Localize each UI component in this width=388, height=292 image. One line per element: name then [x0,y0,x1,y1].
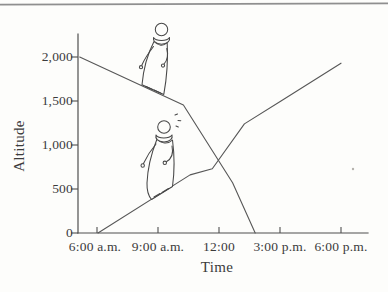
x-tick-label-3pm: 3:00 p.m. [253,239,306,254]
y-tick-label-0: 0 [66,225,73,240]
descending-monk-figure [139,23,169,94]
y-tick-label-2000: 2,000 [42,49,73,64]
ascending-monk-figure [141,114,181,200]
top-rule [0,3,388,4]
y-tick-label-1500: 1,500 [42,93,73,108]
monk-hand-left [139,66,142,69]
x-tick-labels: 6:00 a.m. 9:00 a.m. 12:00 3:00 p.m. 6:00… [69,239,368,254]
monk-hand-right [161,64,164,67]
x-tick-label-6pm: 6:00 p.m. [314,239,367,254]
monk-head [158,121,171,134]
x-ticks [97,227,341,233]
x-tick-label-12: 12:00 [203,239,235,254]
monk-hand-left [141,164,144,167]
x-tick-label-6am: 6:00 a.m. [69,239,121,254]
y-tick-label-500: 500 [52,181,73,196]
y-axis-title: Altitude [11,120,27,172]
sweat-marks [175,114,181,127]
y-tick-labels: 0 500 1,000 1,500 2,000 [42,49,73,240]
monk-robe [147,139,174,200]
monk-hand-right [163,161,166,164]
y-tick-label-1000: 1,000 [42,137,73,152]
x-tick-label-9am: 9:00 a.m. [132,239,184,254]
monk-cowl [156,135,172,142]
ascending-line [98,63,341,233]
altitude-time-chart: 0 500 1,000 1,500 2,000 6:00 a.m. 9:00 a… [0,0,388,292]
print-speck [352,168,354,170]
monk-head [155,23,167,35]
x-axis-title: Time [201,259,233,275]
book-figure-page: 0 500 1,000 1,500 2,000 6:00 a.m. 9:00 a… [0,0,388,292]
